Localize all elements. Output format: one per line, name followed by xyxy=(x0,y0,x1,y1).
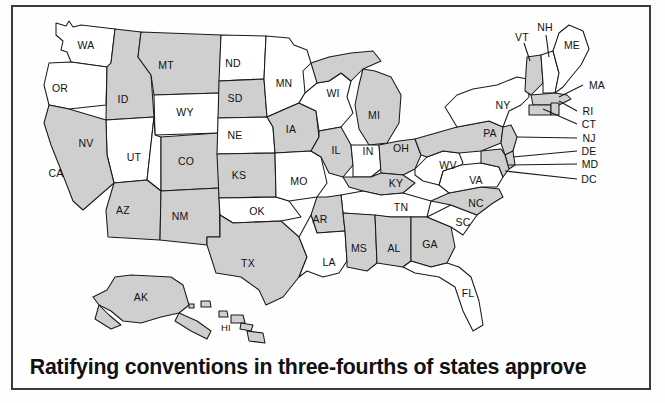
state-shape-al xyxy=(375,215,411,267)
state-shape-ct xyxy=(529,105,551,115)
state-shape-ak-panhandle xyxy=(175,313,211,339)
us-map-svg xyxy=(11,5,651,345)
us-map: WA OR ID MT WY ND SD NE KS MN IA MO WI I… xyxy=(11,5,651,345)
state-shape-nj xyxy=(501,125,517,155)
caption-bar: Ratifying conventions in three-fourths o… xyxy=(11,345,651,390)
leader-line-md xyxy=(509,164,577,165)
state-shape-nd xyxy=(219,35,266,81)
state-shape-hi-6 xyxy=(247,331,265,343)
state-shape-ar xyxy=(311,195,345,233)
state-shape-in xyxy=(351,145,381,177)
state-shape-tx xyxy=(207,215,307,305)
state-shape-mo xyxy=(275,151,327,201)
state-shape-or xyxy=(44,62,107,109)
leader-line-ri xyxy=(559,101,577,111)
leader-line-de xyxy=(513,151,577,157)
state-shape-wy xyxy=(154,93,219,135)
state-shape-mi-lp xyxy=(355,69,401,145)
state-shape-hi-5 xyxy=(240,323,253,331)
state-shape-ms xyxy=(343,213,377,271)
state-shape-hi-2 xyxy=(201,301,211,307)
state-shape-hi-4 xyxy=(231,315,245,323)
state-shape-fl xyxy=(403,261,483,331)
state-shape-ca xyxy=(44,105,114,210)
state-shape-az xyxy=(106,180,161,240)
state-shape-nv xyxy=(106,117,154,183)
leader-line-nj xyxy=(517,137,577,138)
state-shape-nm xyxy=(160,188,220,245)
state-shape-vt xyxy=(525,55,543,95)
state-shape-tn xyxy=(341,191,431,217)
state-shape-hi-3 xyxy=(219,311,228,317)
state-shape-ny xyxy=(445,77,529,127)
figure-container: WA OR ID MT WY ND SD NE KS MN IA MO WI I… xyxy=(0,0,665,403)
state-shape-me xyxy=(553,25,589,93)
state-shape-wa xyxy=(56,21,115,67)
state-shape-ks xyxy=(217,153,276,198)
figure-caption: Ratifying conventions in three-fourths o… xyxy=(11,355,586,380)
state-shape-hi-1 xyxy=(189,304,194,308)
leader-line-ct xyxy=(543,109,577,124)
state-shape-sd xyxy=(218,79,267,118)
leader-line-dc xyxy=(505,171,577,179)
state-shape-ne xyxy=(217,117,275,154)
state-shape-co xyxy=(161,133,219,191)
